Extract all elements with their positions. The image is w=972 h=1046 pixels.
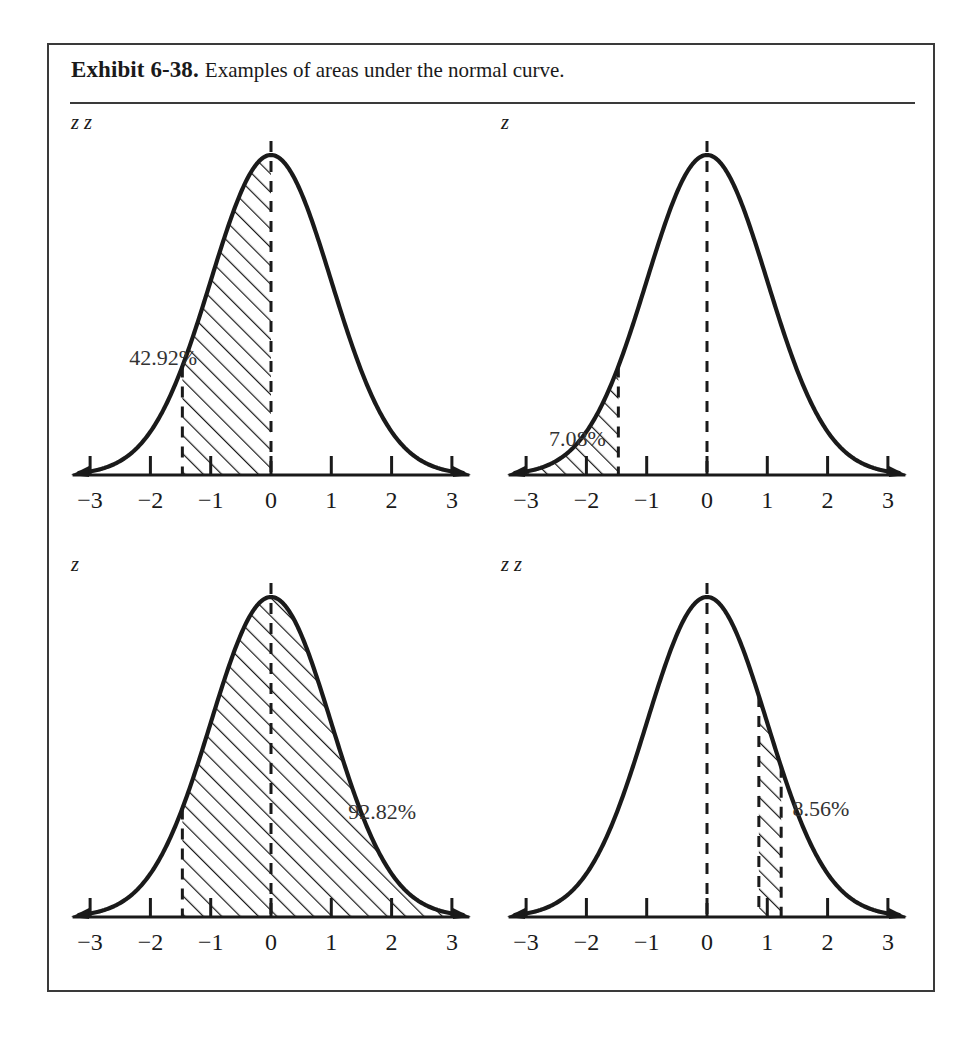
panel-b-z-symbol-1: z	[501, 111, 509, 133]
panel-c-plot: −3−2−1012392.82%	[49, 579, 493, 989]
panel-b-tick-label-4: 1	[761, 487, 773, 513]
panel-b-tick-label-0: −3	[513, 487, 539, 513]
panel-d-tick-label-3: 0	[701, 929, 713, 955]
panel-c-percent-label: 92.82%	[348, 799, 416, 824]
panel-grid: z z −3−2−1012342.92% z −3−2−101237.08% z…	[49, 107, 933, 992]
panel-c-tick-label-6: 3	[446, 929, 458, 955]
panel-c-tick-label-2: −1	[198, 929, 224, 955]
panel-d: z z −3−2−101238.56%	[485, 549, 929, 991]
panel-a-plot: −3−2−1012342.92%	[49, 137, 493, 547]
panel-a-tick-label-4: 1	[325, 487, 337, 513]
panel-b-shaded-area	[517, 366, 618, 475]
panel-c-tick-label-3: 0	[265, 929, 277, 955]
panel-c-tick-label-5: 2	[386, 929, 398, 955]
panel-c-tick-label-0: −3	[77, 929, 103, 955]
panel-a-tick-label-2: −1	[198, 487, 224, 513]
panel-b-tick-label-3: 0	[701, 487, 713, 513]
exhibit-title: Exhibit 6-38.Examples of areas under the…	[49, 45, 933, 101]
exhibit-number: Exhibit 6-38.	[71, 57, 199, 82]
panel-c-tick-label-4: 1	[325, 929, 337, 955]
panel-c-tick-label-1: −2	[138, 929, 164, 955]
panel-c-shaded-area	[182, 597, 461, 917]
panel-a: z z −3−2−1012342.92%	[49, 107, 493, 549]
panel-a-tick-label-1: −2	[138, 487, 164, 513]
panel-d-tick-label-4: 1	[761, 929, 773, 955]
panel-a-tick-label-0: −3	[77, 487, 103, 513]
panel-a-percent-label: 42.92%	[129, 345, 197, 370]
exhibit-caption: Examples of areas under the normal curve…	[205, 58, 565, 82]
panel-a-z-symbol-2: z	[84, 111, 92, 133]
panel-c: z −3−2−1012392.82%	[49, 549, 493, 991]
panel-a-tick-label-5: 2	[386, 487, 398, 513]
panel-d-percent-label: 8.56%	[793, 796, 850, 821]
panel-b-plot: −3−2−101237.08%	[485, 137, 929, 547]
panel-b-percent-label: 7.08%	[549, 426, 606, 451]
panel-d-tick-label-2: −1	[634, 929, 660, 955]
panel-b: z −3−2−101237.08%	[485, 107, 929, 549]
panel-d-z-symbol-2: z	[514, 553, 522, 575]
title-divider	[70, 102, 915, 104]
exhibit-frame: Exhibit 6-38.Examples of areas under the…	[47, 43, 935, 992]
panel-a-shaded-area	[182, 155, 271, 475]
panel-b-tick-label-2: −1	[634, 487, 660, 513]
panel-d-z-symbol-1: z	[501, 553, 509, 575]
panel-a-tick-label-3: 0	[265, 487, 277, 513]
panel-d-tick-label-5: 2	[822, 929, 834, 955]
panel-a-tick-label-6: 3	[446, 487, 458, 513]
panel-a-z-symbol-1: z	[71, 111, 79, 133]
panel-b-tick-label-5: 2	[822, 487, 834, 513]
panel-c-z-symbol-1: z	[71, 553, 79, 575]
panel-d-plot: −3−2−101238.56%	[485, 579, 929, 989]
panel-d-tick-label-0: −3	[513, 929, 539, 955]
panel-d-tick-label-1: −2	[574, 929, 600, 955]
panel-b-tick-label-6: 3	[882, 487, 894, 513]
panel-b-tick-label-1: −2	[574, 487, 600, 513]
panel-d-tick-label-6: 3	[882, 929, 894, 955]
